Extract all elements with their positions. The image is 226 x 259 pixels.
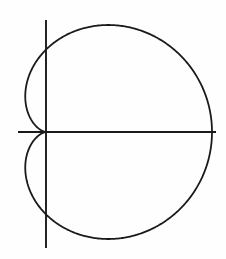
figure-root: cardioid r = a(1 + cos(theta)) <box>0 0 226 259</box>
plot-background <box>0 0 226 259</box>
cardioid-plot <box>0 0 226 259</box>
